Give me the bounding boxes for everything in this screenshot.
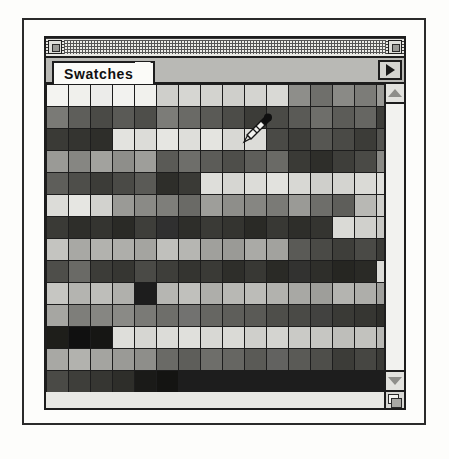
- swatch-cell[interactable]: [355, 217, 376, 238]
- swatch-cell[interactable]: [135, 151, 156, 172]
- swatch-cell[interactable]: [267, 239, 288, 260]
- swatch-cell[interactable]: [179, 85, 200, 106]
- scroll-up-button[interactable]: [386, 84, 404, 104]
- swatch-cell[interactable]: [223, 107, 244, 128]
- swatch-cell[interactable]: [69, 371, 90, 392]
- swatch-cell[interactable]: [267, 85, 288, 106]
- swatch-cell[interactable]: [267, 217, 288, 238]
- swatch-cell[interactable]: [47, 195, 68, 216]
- swatch-cell[interactable]: [377, 327, 384, 348]
- swatch-cell[interactable]: [245, 151, 266, 172]
- swatch-cell[interactable]: [201, 107, 222, 128]
- swatch-cell[interactable]: [267, 107, 288, 128]
- swatch-cell[interactable]: [91, 151, 112, 172]
- swatch-cell[interactable]: [377, 85, 384, 106]
- swatch-cell[interactable]: [201, 151, 222, 172]
- swatch-cell[interactable]: [355, 151, 376, 172]
- swatch-cell[interactable]: [135, 239, 156, 260]
- swatch-cell[interactable]: [91, 129, 112, 150]
- swatch-cell[interactable]: [135, 371, 156, 392]
- swatch-cell[interactable]: [157, 371, 178, 392]
- swatch-cell[interactable]: [113, 129, 134, 150]
- swatch-cell[interactable]: [289, 107, 310, 128]
- swatch-cell[interactable]: [47, 305, 68, 326]
- swatch-cell[interactable]: [201, 305, 222, 326]
- swatch-cell[interactable]: [179, 129, 200, 150]
- swatch-cell[interactable]: [91, 305, 112, 326]
- swatch-cell[interactable]: [223, 85, 244, 106]
- swatch-cell[interactable]: [113, 107, 134, 128]
- swatch-cell[interactable]: [377, 129, 384, 150]
- swatch-cell[interactable]: [289, 173, 310, 194]
- swatch-cell[interactable]: [91, 107, 112, 128]
- swatch-cell[interactable]: [311, 261, 332, 282]
- swatch-cell[interactable]: [135, 129, 156, 150]
- swatch-cell[interactable]: [355, 283, 376, 304]
- swatch-cell[interactable]: [289, 283, 310, 304]
- swatch-cell[interactable]: [223, 261, 244, 282]
- swatch-cell[interactable]: [333, 261, 354, 282]
- swatch-cell[interactable]: [179, 151, 200, 172]
- swatch-cell[interactable]: [267, 283, 288, 304]
- swatch-cell[interactable]: [267, 349, 288, 370]
- swatch-cell[interactable]: [223, 217, 244, 238]
- swatch-cell[interactable]: [267, 129, 288, 150]
- swatch-cell[interactable]: [355, 261, 376, 282]
- swatch-cell[interactable]: [245, 85, 266, 106]
- swatch-cell[interactable]: [223, 305, 244, 326]
- swatch-cell[interactable]: [201, 239, 222, 260]
- swatch-cell[interactable]: [157, 305, 178, 326]
- swatch-cell[interactable]: [157, 173, 178, 194]
- swatch-cell[interactable]: [267, 261, 288, 282]
- swatch-cell[interactable]: [201, 261, 222, 282]
- swatch-cell[interactable]: [113, 305, 134, 326]
- resize-grow-box-icon[interactable]: [386, 390, 404, 408]
- swatch-cell[interactable]: [245, 173, 266, 194]
- swatch-cell[interactable]: [113, 195, 134, 216]
- swatch-cell[interactable]: [267, 305, 288, 326]
- swatch-cell[interactable]: [333, 239, 354, 260]
- swatch-cell[interactable]: [113, 371, 134, 392]
- swatch-cell[interactable]: [245, 327, 266, 348]
- swatch-cell[interactable]: [91, 239, 112, 260]
- swatch-cell[interactable]: [377, 217, 384, 238]
- swatch-cell[interactable]: [333, 327, 354, 348]
- swatch-cell[interactable]: [311, 283, 332, 304]
- swatch-cell[interactable]: [355, 239, 376, 260]
- tab-swatches[interactable]: Swatches: [52, 61, 155, 84]
- swatch-cell[interactable]: [355, 129, 376, 150]
- swatch-cell[interactable]: [91, 371, 112, 392]
- swatch-cell[interactable]: [267, 173, 288, 194]
- swatch-cell[interactable]: [377, 173, 384, 194]
- swatch-cell[interactable]: [245, 107, 266, 128]
- swatch-cell[interactable]: [245, 239, 266, 260]
- swatch-cell[interactable]: [135, 283, 156, 304]
- swatch-cell[interactable]: [289, 327, 310, 348]
- swatch-cell[interactable]: [223, 283, 244, 304]
- swatch-cell[interactable]: [333, 195, 354, 216]
- palette-title-bar[interactable]: [46, 38, 404, 58]
- swatch-cell[interactable]: [91, 283, 112, 304]
- swatch-cell[interactable]: [113, 85, 134, 106]
- swatch-cell[interactable]: [245, 283, 266, 304]
- swatch-cell[interactable]: [69, 283, 90, 304]
- swatch-cell[interactable]: [47, 85, 68, 106]
- swatch-cell[interactable]: [179, 239, 200, 260]
- swatch-cell[interactable]: [289, 261, 310, 282]
- swatch-cell[interactable]: [201, 129, 222, 150]
- swatch-cell[interactable]: [69, 195, 90, 216]
- swatch-cell[interactable]: [91, 173, 112, 194]
- swatch-cell[interactable]: [333, 151, 354, 172]
- swatch-cell[interactable]: [91, 327, 112, 348]
- swatch-cell[interactable]: [377, 305, 384, 326]
- swatch-cell[interactable]: [333, 349, 354, 370]
- swatch-cell[interactable]: [113, 151, 134, 172]
- swatch-cell[interactable]: [377, 107, 384, 128]
- swatch-cell[interactable]: [179, 173, 200, 194]
- swatch-cell[interactable]: [157, 85, 178, 106]
- swatch-cell[interactable]: [113, 283, 134, 304]
- scroll-down-button[interactable]: [386, 370, 404, 390]
- swatch-cell[interactable]: [179, 327, 200, 348]
- vertical-scrollbar[interactable]: [384, 84, 404, 408]
- swatch-cell[interactable]: [47, 217, 68, 238]
